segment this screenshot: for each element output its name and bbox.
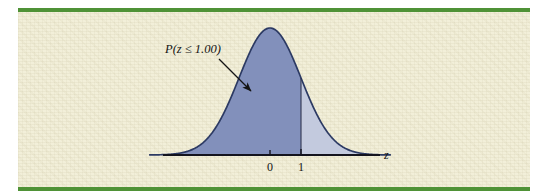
figure-container: 0 1 z P(z ≤ 1.00) xyxy=(0,0,552,195)
probability-annotation-label: P(z ≤ 1.00) xyxy=(164,42,221,56)
x-axis-label: z xyxy=(383,148,389,162)
normal-distribution-chart: 0 1 z P(z ≤ 1.00) xyxy=(0,0,552,195)
tick-label-1: 1 xyxy=(298,160,304,174)
tick-label-0: 0 xyxy=(267,160,273,174)
